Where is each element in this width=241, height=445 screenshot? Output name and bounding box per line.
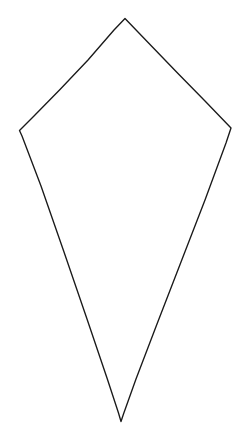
canvas-background [0, 0, 241, 445]
kite-shape-svg [0, 0, 241, 445]
drawing-canvas [0, 0, 241, 445]
